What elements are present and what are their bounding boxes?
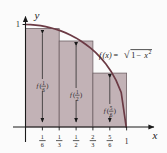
function-label-radicand-exponent: 2 xyxy=(149,49,152,55)
rectangle-label-3-denominator: 6 xyxy=(110,112,113,118)
x-tick-2-numerator: 1 xyxy=(58,133,61,140)
rectangle-label-2-paren-open: ( xyxy=(73,91,75,99)
x-tick-2-denominator: 3 xyxy=(58,141,61,148)
rectangle-label-1-denominator: 6 xyxy=(42,87,45,93)
x-tick-4-numerator: 2 xyxy=(91,133,94,140)
x-tick-1-numerator: 1 xyxy=(41,133,44,140)
function-label: f (x) = √ 1 − x 2 xyxy=(99,49,152,60)
function-label-radical: √ xyxy=(124,49,130,60)
rectangle-label-3-paren-close: ) xyxy=(114,107,116,115)
rectangle-label-1-paren-open: ( xyxy=(39,82,41,90)
rectangle-label-2: f ( 1 2 ) xyxy=(66,88,87,102)
rectangle-label-3-paren-open: ( xyxy=(107,107,109,115)
function-label-radicand-x: x xyxy=(143,51,148,60)
rectangle-label-2-denominator: 2 xyxy=(76,96,79,102)
rectangle-label-1-numerator: 1 xyxy=(42,80,45,86)
x-axis-label: x xyxy=(152,129,158,141)
midpoint-rule-figure: y x 1 1 6 1 3 1 xyxy=(0,0,167,153)
function-label-equals: = xyxy=(114,51,119,60)
rectangle-label-2-numerator: 1 xyxy=(76,89,79,95)
x-tick-4-denominator: 3 xyxy=(91,141,94,148)
y-axis-label: y xyxy=(34,9,40,21)
rectangle-label-3-numerator: 5 xyxy=(110,105,113,111)
x-tick-3-denominator: 2 xyxy=(75,141,78,148)
function-label-radicand-minus: − xyxy=(137,51,142,60)
x-tick-3-numerator: 1 xyxy=(75,133,78,140)
x-tick-5-denominator: 6 xyxy=(108,141,111,148)
rectangle-label-1: f ( 1 6 ) xyxy=(32,79,53,93)
figure-canvas: y x 1 1 6 1 3 1 xyxy=(0,0,167,153)
function-label-arg: (x) xyxy=(103,51,112,60)
rectangle-label-1-paren-close: ) xyxy=(46,82,48,90)
x-tick-1-denominator: 6 xyxy=(41,141,44,148)
x-tick-label-1: 1 xyxy=(125,137,129,146)
x-tick-5-numerator: 5 xyxy=(108,133,111,140)
y-tick-label-1: 1 xyxy=(16,20,20,29)
rectangle-label-2-paren-close: ) xyxy=(80,91,82,99)
function-label-radicand-one: 1 xyxy=(131,51,135,60)
rectangle-label-3: f ( 5 6 ) xyxy=(99,104,120,118)
